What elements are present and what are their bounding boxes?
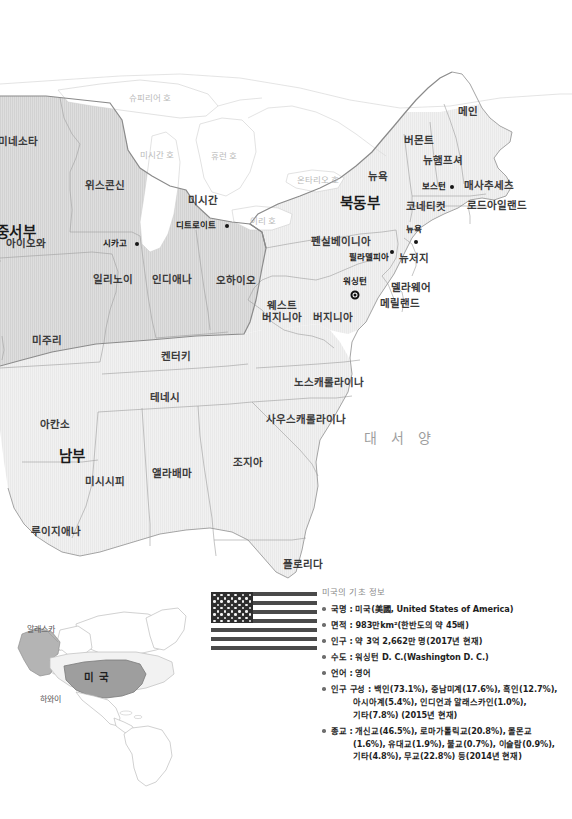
flag-star	[242, 613, 245, 616]
flag-star	[234, 620, 237, 623]
flag-star	[249, 600, 252, 603]
flag-star	[213, 613, 216, 616]
flag-star	[217, 610, 220, 613]
bullet-icon	[322, 639, 326, 643]
info-item-text: 종교 : 개신교(46.5%), 로마가톨릭교(20.8%), 몰몬교	[331, 726, 532, 736]
inset-locator-map: 알래스카 미 국 하와이	[6, 600, 211, 790]
flag-star	[231, 617, 234, 620]
flag-star	[231, 597, 234, 600]
flag-star	[231, 604, 234, 607]
flag-star	[220, 594, 223, 597]
flag-star	[220, 600, 223, 603]
flag-stripe	[211, 646, 317, 650]
flag-star	[234, 594, 237, 597]
flag-star	[213, 607, 216, 610]
flag-star	[220, 607, 223, 610]
flag-star	[238, 604, 241, 607]
flag-star	[227, 620, 230, 623]
flag-star	[249, 594, 252, 597]
flag-star	[234, 600, 237, 603]
flag-stripe	[211, 637, 317, 641]
bullet-icon	[322, 623, 326, 627]
flag-star	[245, 597, 248, 600]
info-panel-title: 미국의 기초 정보	[322, 586, 570, 599]
info-item-area: 면적 : 983만km²(한반도의 약 45배)	[322, 619, 570, 632]
us-map-svg	[0, 0, 572, 600]
flag-star	[224, 604, 227, 607]
info-item-text: 수도 : 워싱턴 D. C.(Washington D. C.)	[331, 652, 489, 662]
info-item-population: 인구 : 약 3억 2,662만 명(2017년 현재)	[322, 635, 570, 648]
flag-star	[249, 607, 252, 610]
bullet-icon	[322, 655, 326, 659]
city-dot-chicago	[135, 242, 139, 246]
region-south	[0, 324, 352, 578]
flag-star	[213, 594, 216, 597]
flag-star	[224, 610, 227, 613]
info-item-country-name: 국명 : 미국(美國, United States of America)	[322, 603, 570, 616]
bullet-icon	[322, 671, 326, 675]
info-item-text: 인구 : 약 3억 2,662만 명(2017년 현재)	[331, 636, 482, 646]
info-item-text-line2: 아시아계(5.4%), 인디언과 알래스카인(1.0%),	[331, 696, 570, 709]
info-item-language: 언어 : 영어	[322, 667, 570, 680]
flag-star	[227, 594, 230, 597]
flag-star	[220, 620, 223, 623]
flag-star	[217, 604, 220, 607]
info-item-religion: 종교 : 개신교(46.5%), 로마가톨릭교(20.8%), 몰몬교 (1.6…	[322, 725, 570, 763]
flag-star	[224, 617, 227, 620]
info-item-text: 언어 : 영어	[331, 668, 371, 678]
us-map: 슈피리어 호 미시간 호 휴런 호 온타리오 호 이리 호 중서부 북동부 남부…	[0, 0, 572, 600]
flag-stripe	[211, 628, 317, 632]
flag-star	[234, 613, 237, 616]
info-list: 국명 : 미국(美國, United States of America) 면적…	[322, 603, 570, 763]
flag-star	[217, 597, 220, 600]
city-dot-new-york-city	[414, 240, 418, 244]
city-dot-boston	[450, 185, 454, 189]
flag-star	[249, 613, 252, 616]
us-flag	[211, 592, 317, 654]
flag-star	[231, 610, 234, 613]
bullet-icon	[322, 729, 326, 733]
flag-star	[238, 610, 241, 613]
info-item-capital-city: 수도 : 워싱턴 D. C.(Washington D. C.)	[322, 651, 570, 664]
info-item-text: 인구 구성 : 백인(73.1%), 중남미계(17.6%), 흑인(12.7%…	[331, 684, 557, 694]
info-item-text: 국명 : 미국(美國, United States of America)	[331, 604, 513, 614]
flag-star	[242, 600, 245, 603]
flag-star	[220, 613, 223, 616]
flag-star	[234, 607, 237, 610]
info-item-text-line3: 기타(4.8%), 무교(22.8%) 등(2014년 현재)	[331, 750, 570, 763]
flag-star	[213, 620, 216, 623]
flag-star	[227, 607, 230, 610]
flag-star	[249, 620, 252, 623]
flag-star	[238, 617, 241, 620]
inset-label-alaska: 알래스카	[27, 623, 55, 634]
info-item-text-line2: (1.6%), 유대교(1.9%), 불교(0.7%), 이슬람(0.9%),	[331, 738, 570, 751]
page-root: 슈피리어 호 미시간 호 휴런 호 온타리오 호 이리 호 중서부 북동부 남부…	[0, 0, 572, 819]
info-item-ethnic-composition: 인구 구성 : 백인(73.1%), 중남미계(17.6%), 흑인(12.7%…	[322, 683, 570, 721]
flag-star	[217, 617, 220, 620]
flag-star	[242, 594, 245, 597]
info-panel: 미국의 기초 정보 국명 : 미국(美國, United States of A…	[322, 586, 570, 766]
flag-star	[224, 597, 227, 600]
capital-marker-washington-dc	[351, 291, 360, 300]
flag-star	[242, 607, 245, 610]
flag-star	[245, 604, 248, 607]
flag-canton	[211, 592, 253, 623]
flag-star	[227, 613, 230, 616]
inset-label-usa: 미 국	[84, 669, 111, 684]
inset-label-hawaii: 하와이	[40, 693, 61, 704]
flag-star	[238, 597, 241, 600]
info-item-text: 면적 : 983만km²(한반도의 약 45배)	[331, 620, 469, 630]
bullet-icon	[322, 607, 326, 611]
city-dot-detroit	[225, 224, 229, 228]
us-flag-graphic	[211, 592, 317, 650]
flag-star	[227, 600, 230, 603]
flag-star	[213, 600, 216, 603]
flag-star	[245, 610, 248, 613]
flag-star	[242, 620, 245, 623]
region-northeast	[244, 72, 512, 334]
flag-star	[245, 617, 248, 620]
bullet-icon	[322, 687, 326, 691]
info-item-text-line3: 기타(7.8%) (2015년 현재)	[331, 709, 570, 722]
city-dot-philadelphia	[390, 250, 394, 254]
